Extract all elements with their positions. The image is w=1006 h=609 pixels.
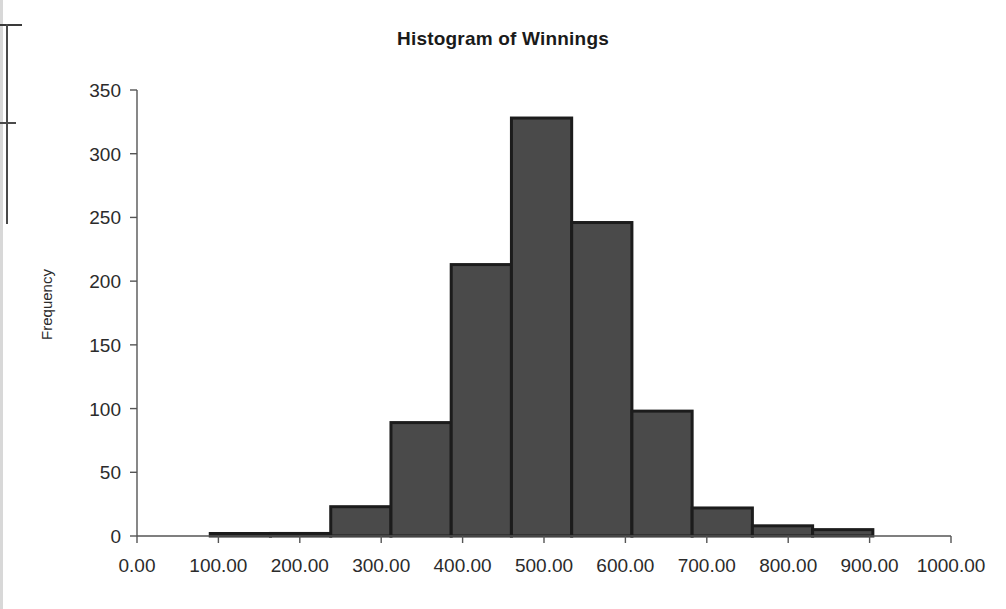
x-tick-label: 200.00 (271, 555, 329, 576)
x-tick-labels: 0.00100.00200.00300.00400.00500.00600.00… (119, 555, 986, 576)
x-tick-label: 100.00 (189, 555, 247, 576)
y-tick-label: 100 (89, 399, 121, 420)
y-tick-label: 250 (89, 207, 121, 228)
x-tick-label: 300.00 (352, 555, 410, 576)
x-tick-label: 400.00 (434, 555, 492, 576)
y-tick-label: 0 (110, 526, 121, 547)
histogram-bar (451, 265, 511, 536)
plot-canvas: 050100150200250300350 0.00100.00200.0030… (0, 0, 1006, 609)
histogram-bar (813, 530, 873, 536)
histogram-bar (331, 507, 391, 536)
histogram-chart: Histogram of Winnings Frequency 05010015… (0, 0, 1006, 609)
histogram-bar (692, 508, 752, 536)
y-tick-label: 300 (89, 144, 121, 165)
y-tick-label: 50 (100, 462, 121, 483)
bars-group (210, 118, 873, 536)
x-tick-label: 500.00 (515, 555, 573, 576)
y-tick-label: 150 (89, 335, 121, 356)
x-tick-label: 900.00 (841, 555, 899, 576)
histogram-bar (632, 411, 692, 536)
x-tick-label: 700.00 (678, 555, 736, 576)
x-tick-label: 600.00 (596, 555, 654, 576)
y-tick-label: 350 (89, 80, 121, 101)
x-tick-label: 1000.00 (917, 555, 986, 576)
y-tick-label: 200 (89, 271, 121, 292)
x-tick-label: 800.00 (759, 555, 817, 576)
histogram-bar (391, 423, 451, 536)
histogram-bar (572, 223, 632, 536)
histogram-bar (752, 526, 812, 536)
x-tick-label: 0.00 (119, 555, 156, 576)
y-tick-labels: 050100150200250300350 (89, 80, 121, 547)
histogram-bar (511, 118, 571, 536)
